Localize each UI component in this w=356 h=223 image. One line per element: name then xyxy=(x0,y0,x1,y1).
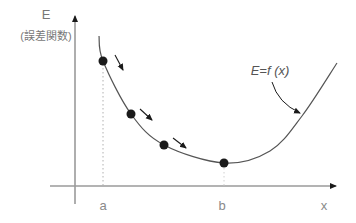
error-curve xyxy=(99,36,337,163)
descent-dot-3 xyxy=(160,141,169,150)
descent-dot-1 xyxy=(99,57,108,66)
gradient-descent-diagram: E (誤差関数) E=f (x) a b x xyxy=(0,0,356,223)
descent-dot-2 xyxy=(127,110,136,119)
axes xyxy=(50,16,336,204)
curve-label-arrow xyxy=(272,82,300,113)
tick-label-a: a xyxy=(99,198,106,213)
descent-arrows xyxy=(115,55,186,148)
descent-arrow-3 xyxy=(173,138,186,148)
y-axis-sublabel: (誤差関数) xyxy=(20,27,71,43)
guide-lines xyxy=(103,64,224,186)
tick-label-b: b xyxy=(218,198,225,213)
curve-label: E=f (x) xyxy=(251,63,290,78)
descent-dot-4 xyxy=(220,159,229,168)
curve-label-arrow-path xyxy=(272,82,300,113)
error-curve-path xyxy=(99,36,337,163)
y-axis-label: E xyxy=(42,7,51,22)
descent-arrow-1 xyxy=(115,55,123,70)
descent-dots xyxy=(99,57,229,168)
descent-arrow-2 xyxy=(140,109,152,120)
x-axis-label: x xyxy=(321,198,328,213)
